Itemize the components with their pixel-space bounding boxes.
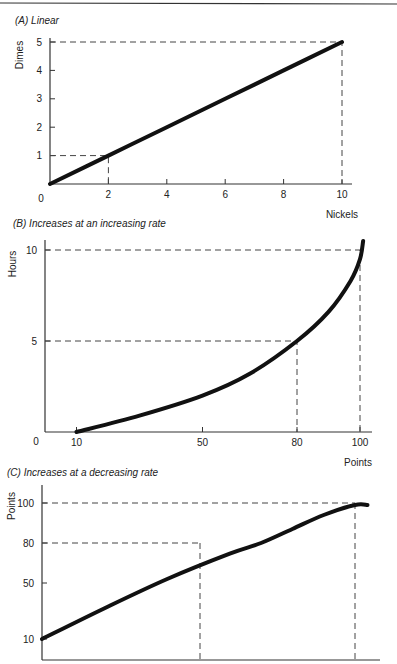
panel-a-ylabel: Dimes <box>14 41 25 69</box>
panel-c-title: (C) Increases at a decreasing rate <box>7 467 159 478</box>
chart-figure: (A) Linear Dimes Nickels 0 12345246810 (… <box>0 0 397 664</box>
panel-a-xlabel: Nickels <box>326 209 358 220</box>
panel-b: (B) Increases at an increasing rate Hour… <box>7 218 372 468</box>
panel-a-x-tick-label: 8 <box>281 189 287 200</box>
panel-b-series-line <box>77 241 364 432</box>
panel-c-ylabel: Points <box>6 492 17 520</box>
panel-b-title: (B) Increases at an increasing rate <box>13 218 166 229</box>
panel-b-x-tick-label: 50 <box>197 437 209 448</box>
panel-c: (C) Increases at a decreasing rate Point… <box>6 467 380 660</box>
panel-c-y-tick-label: 10 <box>23 634 35 645</box>
panel-a-x-tick-label: 4 <box>164 189 170 200</box>
panel-a: (A) Linear Dimes Nickels 0 12345246810 <box>14 15 358 220</box>
top-rule <box>0 3 397 4</box>
panel-c-series-line <box>42 504 368 639</box>
panel-c-y-tick-label: 100 <box>17 498 34 509</box>
panel-c-y-tick-label: 80 <box>23 538 35 549</box>
panel-a-series-line <box>50 42 342 184</box>
panel-b-x-tick-label: 100 <box>352 437 369 448</box>
panel-a-y-tick-label: 3 <box>36 93 42 104</box>
panel-a-x-tick-label: 2 <box>106 189 112 200</box>
panel-b-guide-line <box>45 250 360 432</box>
panel-a-y-tick-label: 4 <box>36 65 42 76</box>
panel-b-xlabel: Points <box>344 457 372 468</box>
panel-b-ylabel: Hours <box>7 251 18 278</box>
panel-b-guide-line <box>45 341 297 432</box>
panel-b-x-tick-label: 10 <box>71 437 83 448</box>
panel-a-x-tick-label: 6 <box>222 189 228 200</box>
panel-a-x-tick-label: 10 <box>336 189 348 200</box>
panel-c-y-tick-label: 50 <box>23 578 35 589</box>
panel-a-origin-label: 0 <box>38 193 44 204</box>
panel-b-x-tick-label: 80 <box>291 437 303 448</box>
panel-a-y-tick-label: 1 <box>36 150 42 161</box>
panel-b-origin-label: 0 <box>33 436 39 447</box>
panel-a-y-tick-label: 5 <box>36 37 42 48</box>
panel-a-title: (A) Linear <box>15 15 60 26</box>
panel-b-y-tick-label: 10 <box>26 245 38 256</box>
panel-a-y-tick-label: 2 <box>36 122 42 133</box>
panel-b-y-tick-label: 5 <box>31 336 37 347</box>
